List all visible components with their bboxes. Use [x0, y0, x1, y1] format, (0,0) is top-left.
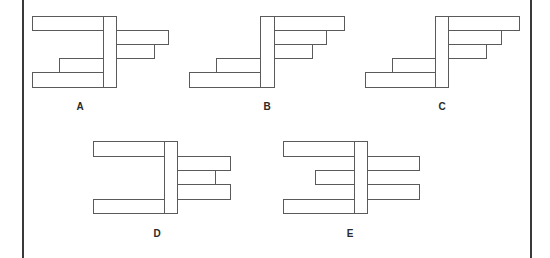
figure-b-left-bar-bottom [189, 72, 261, 88]
figure-b-right-bar-2 [274, 30, 327, 45]
figure-e-left-bar-middle [315, 170, 355, 185]
figure-e-left-bar-top [283, 141, 355, 157]
figure-label-b: B [263, 102, 270, 112]
figure-e-post [354, 141, 368, 214]
figure-d-post [164, 141, 178, 214]
figure-c-left-bar-bottom [365, 72, 436, 88]
figure-d-right-bar-1 [177, 156, 231, 171]
figure-a-right-bar-2 [116, 44, 155, 59]
figure-label-e: E [347, 229, 354, 239]
figure-e-right-bar-2 [367, 184, 420, 200]
figure-a-right-bar-1 [116, 30, 169, 45]
figure-b-right-bar-1 [274, 16, 345, 31]
figure-c-post [435, 16, 449, 88]
figure-b-left-bar-short [216, 58, 261, 73]
figure-e-right-bar-1 [367, 156, 420, 171]
figure-label-c: C [438, 102, 445, 112]
figure-c-right-bar-1 [448, 16, 520, 31]
figure-d-right-bar-3 [177, 184, 231, 200]
figure-a-left-bar-short [59, 58, 104, 73]
figures-canvas: ABCDE [0, 0, 550, 258]
figure-label-d: D [153, 229, 160, 239]
figure-c-left-bar-short [392, 58, 436, 73]
figure-b-post [260, 16, 275, 88]
figure-e-left-bar-bottom [283, 199, 355, 214]
figure-a-left-bar-top [32, 16, 104, 31]
figure-d-left-bar-bottom [93, 199, 165, 214]
figure-c-right-bar-2 [448, 30, 502, 45]
figure-a-post [103, 16, 117, 88]
figure-d-right-bar-2 [177, 170, 216, 185]
figure-d-left-bar-top [93, 141, 165, 157]
figure-a-left-bar-bottom [32, 72, 104, 88]
figure-b-right-bar-3 [274, 44, 313, 59]
figure-label-a: A [76, 102, 83, 112]
figure-c-right-bar-3 [448, 44, 487, 59]
